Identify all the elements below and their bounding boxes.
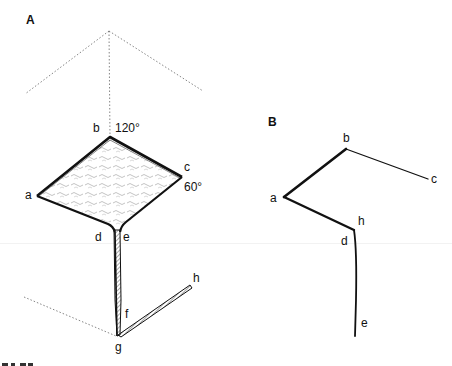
point-label-g: g: [115, 340, 122, 354]
point-label-c: c: [184, 160, 190, 174]
point-label-d: d: [341, 234, 348, 248]
figure-canvas: A b 120° c 60° a: [0, 0, 452, 366]
point-label-a: a: [25, 188, 32, 202]
point-label-f: f: [125, 307, 129, 321]
point-label-d: d: [95, 230, 102, 244]
panel-label-b: B: [268, 115, 277, 129]
panel-b: B b c a h d e: [268, 115, 437, 336]
point-label-h: h: [358, 214, 365, 228]
point-label-b: b: [343, 131, 350, 145]
construction-lines-top: [25, 31, 203, 137]
angle-label-120: 120°: [115, 121, 140, 135]
point-label-a: a: [270, 191, 277, 205]
point-label-c: c: [431, 172, 437, 186]
point-label-b: b: [93, 121, 100, 135]
point-label-e: e: [123, 230, 130, 244]
edge-view-lines: [284, 149, 428, 336]
panel-a: A b 120° c 60° a: [24, 13, 203, 354]
construction-line-bottom: [24, 297, 116, 336]
stalk: [114, 230, 121, 336]
point-label-h: h: [193, 271, 200, 285]
ribbon: [118, 285, 192, 337]
panel-label-a: A: [26, 13, 35, 27]
textured-surface: [37, 137, 182, 232]
angle-label-60: 60°: [184, 180, 202, 194]
point-label-e: e: [361, 316, 368, 330]
